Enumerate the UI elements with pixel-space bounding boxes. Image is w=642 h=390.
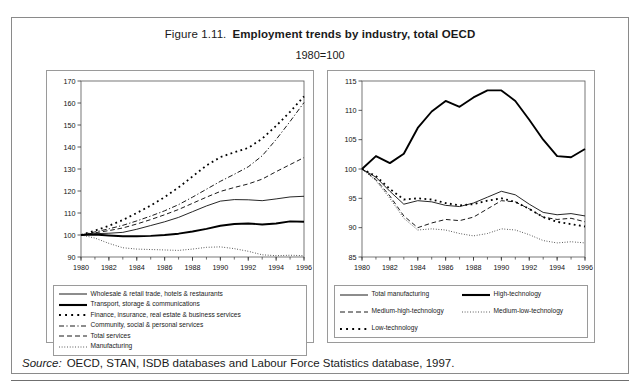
- legend-label: Wholesale & retail trade, hotels & resta…: [91, 291, 223, 298]
- legend-item: Low-technology: [339, 323, 461, 334]
- svg-text:100: 100: [63, 231, 75, 240]
- figure-number: Figure 1.11.: [165, 28, 227, 40]
- legend-item: High-technology: [461, 289, 583, 300]
- chart-panel-manufacturing: 8590951001051101151980198219841986198819…: [327, 70, 595, 343]
- figure-subtitle: 1980=100: [12, 49, 628, 61]
- figure-frame: Figure 1.11.Employment trends by industr…: [11, 17, 629, 374]
- svg-text:1982: 1982: [381, 263, 397, 272]
- legend-item: Total manufacturing: [339, 289, 461, 300]
- svg-text:1980: 1980: [354, 263, 370, 272]
- legend-label: Manufacturing: [91, 343, 133, 350]
- svg-text:1982: 1982: [100, 263, 116, 272]
- legend-label: High-technology: [494, 291, 542, 298]
- svg-text:1988: 1988: [465, 263, 481, 272]
- svg-text:1988: 1988: [184, 263, 200, 272]
- svg-text:100: 100: [344, 165, 356, 174]
- svg-text:1996: 1996: [296, 263, 312, 272]
- source-divider: [11, 380, 629, 381]
- svg-text:110: 110: [345, 106, 356, 115]
- svg-text:1996: 1996: [577, 263, 593, 272]
- legend-swatch-square-dot: [58, 311, 88, 319]
- svg-text:1986: 1986: [156, 263, 172, 272]
- legend-swatch-solid-thick: [461, 291, 491, 299]
- legend-label: Community, social & personal services: [91, 322, 204, 329]
- legend-swatch-solid-thin: [58, 290, 88, 298]
- svg-text:95: 95: [348, 194, 356, 203]
- svg-text:1992: 1992: [521, 263, 537, 272]
- svg-text:1984: 1984: [409, 263, 425, 272]
- svg-text:105: 105: [344, 135, 356, 144]
- legend-label: Low-technology: [372, 325, 418, 332]
- legend-swatch-solid-thick: [58, 301, 88, 309]
- legend-label: Total manufacturing: [372, 291, 430, 298]
- legend-item: Manufacturing: [58, 342, 302, 353]
- svg-text:90: 90: [67, 253, 75, 262]
- legend-swatch-solid-thin: [339, 291, 369, 299]
- legend-label: Finance, insurance, real estate & busine…: [91, 312, 241, 319]
- svg-text:1986: 1986: [437, 263, 453, 272]
- legend-swatch-fine-dot: [58, 343, 88, 351]
- legend-manufacturing: Total manufacturing High-technology Medi…: [334, 285, 588, 338]
- svg-text:130: 130: [63, 165, 75, 174]
- plot-area-manufacturing: 8590951001051101151980198219841986198819…: [328, 71, 594, 283]
- svg-text:110: 110: [64, 209, 75, 218]
- svg-text:160: 160: [63, 99, 75, 108]
- svg-text:1992: 1992: [240, 263, 256, 272]
- legend-swatch-fine-dot: [461, 308, 491, 316]
- source-label: Source:: [22, 357, 62, 369]
- svg-text:170: 170: [63, 77, 75, 86]
- legend-services: Wholesale & retail trade, hotels & resta…: [53, 285, 307, 356]
- legend-item: Finance, insurance, real estate & busine…: [58, 310, 302, 321]
- line-chart-manufacturing: 8590951001051101151980198219841986198819…: [328, 71, 594, 283]
- source-text: OECD, STAN, ISDB databases and Labour Fo…: [67, 357, 455, 369]
- legend-item: Transport, storage & communications: [58, 300, 302, 311]
- legend-item: Wholesale & retail trade, hotels & resta…: [58, 289, 302, 300]
- svg-text:1990: 1990: [212, 263, 228, 272]
- line-chart-services: 9010011012013014015016017019801982198419…: [47, 71, 313, 283]
- legend-item: Medium-low-technology: [461, 306, 583, 317]
- source-note: Source:OECD, STAN, ISDB databases and La…: [22, 357, 454, 369]
- svg-text:150: 150: [63, 121, 75, 130]
- legend-swatch-square-dot: [339, 325, 369, 333]
- plot-area-services: 9010011012013014015016017019801982198419…: [47, 71, 313, 283]
- legend-swatch-dash-dot: [58, 322, 88, 330]
- legend-label: Medium-low-technology: [494, 308, 564, 315]
- svg-text:140: 140: [63, 143, 75, 152]
- legend-swatch-dashed: [339, 308, 369, 316]
- chart-panel-services: 9010011012013014015016017019801982198419…: [46, 70, 314, 343]
- figure-title: Figure 1.11.Employment trends by industr…: [12, 28, 628, 40]
- svg-text:85: 85: [348, 253, 356, 262]
- legend-swatch-dashed: [58, 332, 88, 340]
- figure-name: Employment trends by industry, total OEC…: [232, 28, 475, 40]
- svg-text:120: 120: [63, 187, 75, 196]
- svg-text:1994: 1994: [268, 263, 284, 272]
- legend-label: Transport, storage & communications: [91, 301, 200, 308]
- legend-label: Total services: [91, 333, 131, 340]
- legend-label: Medium-high-technology: [372, 308, 444, 315]
- legend-item: Medium-high-technology: [339, 306, 461, 317]
- legend-item: Total services: [58, 331, 302, 342]
- svg-text:1994: 1994: [549, 263, 565, 272]
- svg-text:1980: 1980: [73, 263, 89, 272]
- svg-text:1984: 1984: [128, 263, 144, 272]
- svg-text:115: 115: [345, 77, 356, 86]
- svg-text:90: 90: [348, 223, 356, 232]
- legend-item: Community, social & personal services: [58, 321, 302, 332]
- chart-panels: 9010011012013014015016017019801982198419…: [12, 70, 628, 343]
- svg-text:1990: 1990: [493, 263, 509, 272]
